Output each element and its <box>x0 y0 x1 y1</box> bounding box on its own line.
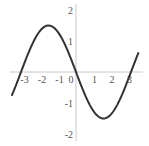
x-tick-label: 1 <box>92 74 97 85</box>
x-tick-label: 2 <box>110 74 115 85</box>
x-tick-label: -2 <box>38 74 46 85</box>
x-tick-label: -1 <box>55 74 63 85</box>
y-tick-label: 2 <box>68 5 73 16</box>
x-tick-label: 0 <box>69 74 74 85</box>
sine-plot: -3-2-10123 21-1-2 <box>0 0 149 146</box>
x-tick-label: -3 <box>20 74 28 85</box>
y-tick-label: -1 <box>65 98 73 109</box>
y-tick-label: 1 <box>68 36 73 47</box>
y-tick-label: -2 <box>65 129 73 140</box>
